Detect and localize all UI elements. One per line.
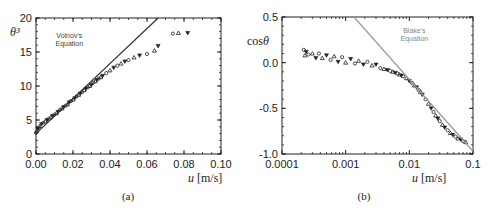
x-axis-label-a: u [m/s] [188, 171, 222, 185]
data-point [112, 66, 116, 70]
volnov-annotation-line2: Equation [55, 40, 83, 48]
data-point [332, 54, 336, 58]
data-point [353, 62, 356, 65]
data-point [357, 59, 361, 63]
y-tick-label: -0.5 [259, 102, 278, 114]
blake-annotation-line1: Blake's [403, 27, 426, 34]
data-point [379, 67, 382, 70]
y-axis-ticks-b: -1.0-0.50.00.5 [259, 11, 473, 160]
data-point [186, 31, 190, 35]
data-point [317, 52, 320, 55]
y-axis-ticks-a: 05101520 [20, 12, 221, 160]
y-tick-label: 20 [20, 12, 32, 24]
x-tick-label: 0.01 [399, 158, 420, 170]
blake-annotation-line2: Equation [401, 35, 429, 43]
data-point [123, 60, 127, 64]
x-axis-ticks-b: 0.00010.0010.010.1 [265, 17, 480, 170]
data-point [119, 62, 123, 65]
y-tick-label: 0.0 [263, 57, 278, 69]
data-point [127, 59, 130, 62]
data-point [341, 56, 344, 59]
x-tick-label: 0.06 [136, 158, 157, 170]
data-point [156, 44, 160, 48]
data-point [366, 60, 369, 63]
caption-a: (a) [122, 190, 135, 203]
data-point [132, 55, 136, 59]
data-point [349, 58, 353, 62]
chart-b: 0.00010.0010.010.1 -1.0-0.50.00.5 Blake'… [247, 11, 481, 203]
y-tick-label: 5 [26, 114, 32, 126]
y-tick-label: 0.5 [263, 11, 278, 23]
data-point [310, 52, 314, 56]
x-tick-label: 0.1 [465, 158, 480, 170]
data-point [152, 49, 156, 53]
data-point [374, 63, 378, 67]
y-axis-label-b: cosθ [247, 34, 269, 48]
data-point [325, 54, 329, 58]
data-point [329, 58, 332, 61]
x-tick-label: 0.001 [332, 158, 360, 170]
data-point [176, 31, 180, 35]
data-point [438, 120, 441, 123]
data-point [454, 135, 457, 138]
caption-b: (b) [358, 190, 371, 203]
data-point [108, 68, 112, 72]
data-point [105, 71, 108, 74]
data-point [370, 63, 374, 67]
data-point [138, 54, 142, 58]
data-point [361, 63, 365, 67]
data-point [116, 64, 119, 67]
x-tick-label: 0.04 [99, 158, 120, 170]
data-point [429, 107, 433, 111]
y-tick-label: 10 [20, 80, 32, 92]
data-point [432, 110, 435, 113]
y-tick-label: 15 [20, 46, 32, 58]
data-point [336, 60, 340, 64]
chart-a: 0.000.020.040.060.080.10 05101520 Volnov… [10, 12, 232, 203]
data-point [145, 52, 148, 55]
data-point [320, 56, 324, 60]
x-tick-label: 0.08 [173, 158, 194, 170]
data-points-b [302, 48, 468, 143]
figure: 0.000.020.040.060.080.10 05101520 Volnov… [0, 0, 494, 211]
data-point [314, 57, 318, 61]
data-point [446, 129, 449, 132]
y-tick-label: 0 [26, 148, 32, 160]
volnov-annotation-line1: Volnov's [56, 32, 82, 39]
y-tick-label: -1.0 [259, 148, 278, 160]
data-point [307, 53, 310, 56]
y-axis-label-a: θ³ [10, 25, 20, 39]
volnov-equation-line [36, 18, 158, 134]
x-tick-label: 0.02 [62, 158, 83, 170]
data-point [171, 32, 174, 35]
plot-frame-b [282, 17, 473, 154]
x-tick-label: 0.10 [210, 158, 231, 170]
data-point [344, 61, 348, 64]
x-axis-label-b: u [m/s] [412, 171, 446, 185]
